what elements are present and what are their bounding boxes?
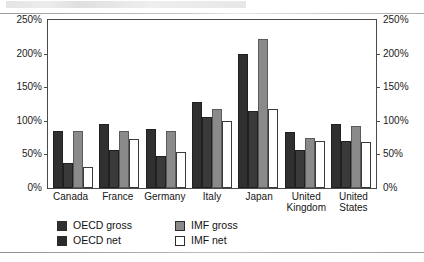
legend-label: OECD gross [73,220,132,231]
bar-oecd-net [341,141,351,188]
bar-oecd-net [295,150,305,188]
y-tick [44,154,48,155]
x-axis-tick-label: France [95,191,141,213]
y-tick [44,121,48,122]
y-axis-tick-label: 100% [0,116,42,126]
y-axis-tick-label: 200% [383,49,409,59]
y-axis-tick-label: 0% [383,183,397,193]
bar-imf-net [361,142,371,188]
x-axis-tick-label: Germany [142,191,188,213]
bar-oecd-gross [331,124,341,188]
bar-imf-net [315,141,325,188]
bar-imf-gross [166,131,176,188]
bar-group [285,20,325,188]
x-axis-tick-label: Italy [189,191,235,213]
bar-imf-gross [305,138,315,188]
y-tick [44,87,48,88]
legend-label: IMF gross [191,220,238,231]
legend-label: IMF net [191,235,227,246]
bar-imf-net [129,139,139,188]
plot-area [47,19,377,189]
page-rule-bottom [0,252,424,253]
y-axis-tick-label: 100% [383,116,409,126]
bar-oecd-net [109,150,119,188]
bar-oecd-net [156,156,166,188]
bar-group [331,20,371,188]
legend-swatch-imf-net [175,236,185,246]
bar-imf-gross [258,39,268,188]
bar-group [192,20,232,188]
y-axis-tick-label: 250% [0,15,42,25]
bar-imf-gross [212,109,222,188]
bar-oecd-net [248,111,258,188]
legend-item: OECD net [57,235,175,246]
scan-artifact-top [6,1,246,8]
legend-swatch-imf-gross [175,221,185,231]
bar-oecd-net [63,163,73,188]
bar-imf-gross [119,131,129,188]
bar-imf-gross [351,126,361,188]
bar-imf-gross [73,131,83,188]
y-tick [376,87,380,88]
y-axis-tick-label: 200% [0,49,42,59]
y-tick [376,154,380,155]
x-axis-tick-label: UnitedKingdom [283,191,329,213]
bar-oecd-gross [99,124,109,188]
legend-swatch-oecd-net [57,236,67,246]
bar-imf-net [268,109,278,188]
page-rule-top [0,13,424,14]
y-axis-tick-label: 150% [0,82,42,92]
y-axis-tick-label: 50% [0,149,42,159]
bar-imf-net [176,152,186,188]
chart-figure: CanadaFranceGermanyItalyJapanUnitedKingd… [0,0,424,262]
legend-item: IMF gross [175,220,287,231]
bar-oecd-gross [285,132,295,188]
x-axis-tick-label: UnitedStates [330,191,376,213]
bar-groups [48,20,376,188]
bar-group [238,20,278,188]
y-axis-tick-label: 250% [383,15,409,25]
y-axis-tick-label: 0% [0,183,42,193]
bar-oecd-net [202,117,212,188]
bar-group [146,20,186,188]
bar-imf-net [83,167,93,189]
legend-item: IMF net [175,235,287,246]
y-tick [376,121,380,122]
x-axis-tick-label: Canada [48,191,94,213]
bar-oecd-gross [192,102,202,188]
y-axis-tick-label: 50% [383,149,403,159]
x-axis-labels: CanadaFranceGermanyItalyJapanUnitedKingd… [47,191,377,213]
bar-oecd-gross [146,129,156,188]
x-axis-tick-label: Japan [236,191,282,213]
chart-legend: OECD grossIMF grossOECD netIMF net [57,218,287,248]
legend-label: OECD net [73,235,121,246]
bar-oecd-gross [238,54,248,188]
y-tick [44,54,48,55]
legend-item: OECD gross [57,220,175,231]
y-tick [376,54,380,55]
bar-group [53,20,93,188]
bar-imf-net [222,121,232,188]
legend-swatch-oecd-gross [57,221,67,231]
y-axis-tick-label: 150% [383,82,409,92]
bar-oecd-gross [53,131,63,188]
bar-group [99,20,139,188]
